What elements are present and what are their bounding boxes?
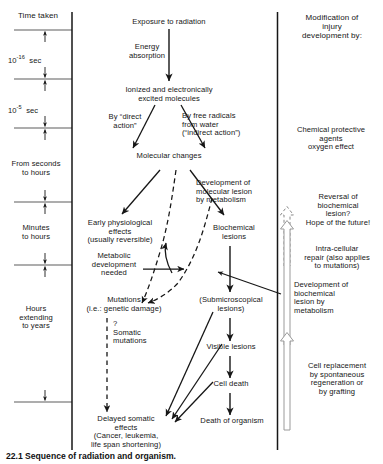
node-biochemical-lesions: Biochemical lesions — [205, 224, 263, 241]
time-interval-5: Hours extending to years — [4, 305, 68, 331]
node-delayed-somatic-effects: Delayed somatic effects (Cancer, leukemi… — [74, 415, 178, 449]
node-submicroscopical-lesions: (Submicroscopical lesions) — [188, 296, 274, 313]
time-interval-1-exponent: -16 — [17, 54, 25, 60]
node-mutations: Mutations (i.e.: genetic damage) — [74, 296, 174, 313]
time-axis-ticks — [14, 30, 72, 402]
modifier-reversal-biochemical-lesion: Reversal of biochemical lesion? Hope of … — [296, 193, 380, 227]
modification-header: Modification of injury development by: — [284, 14, 380, 41]
modifier-chemical-protective-agents: Chemical protective agents oxygen effect — [282, 126, 380, 152]
node-energy-absorption: Energy absorption — [118, 43, 176, 60]
modifier-development-biochemical-lesion: Development of biochemical lesion by met… — [294, 281, 378, 315]
node-direct-action: By “direct action” — [101, 113, 149, 130]
node-cell-death: Cell death — [196, 380, 266, 389]
node-indirect-action: By free radicals from water (“indirect a… — [182, 112, 274, 138]
modifier-intra-cellular-repair: Intra-cellular repair (also applies to m… — [294, 245, 380, 271]
node-death-of-organism: Death of organism — [186, 417, 278, 426]
node-visible-lesions: Visible lesions — [190, 343, 272, 352]
node-somatic-mutations: ? Somatic mutations — [113, 320, 167, 346]
connector-development-biochemical-lesion — [218, 272, 281, 294]
node-ionized-excited-molecules: Ionized and electronically excited molec… — [100, 86, 238, 103]
time-interval-4: Minutes to hours — [4, 224, 68, 241]
hollow-arrow-intra-cellular-repair — [281, 221, 294, 346]
dashed-route-biochemical-to-mutations — [148, 198, 212, 303]
modifier-cell-replacement: Cell replacement by spontaneous regenera… — [294, 362, 380, 396]
node-metabolic-development-needed: Metabolic development needed — [82, 252, 146, 278]
time-interval-3: From seconds to hours — [2, 160, 70, 177]
time-interval-1: 10-16 sec — [8, 45, 66, 65]
figure-caption: 22.1 Sequence of radiation and organism. — [6, 452, 378, 462]
flow-arrow-submicroscopical-to-delayed — [166, 312, 213, 416]
time-interval-1-unit: sec — [29, 55, 41, 64]
time-interval-2: 10-5 sec — [8, 95, 66, 115]
node-early-physiological-effects: Early physiological effects (usually rev… — [74, 219, 166, 245]
node-molecular-changes: Molecular changes — [118, 152, 220, 161]
time-interval-2-base: 10 — [8, 105, 17, 114]
time-interval-1-base: 10 — [8, 55, 17, 64]
flow-arrow-molecular-to-early-physiological — [122, 170, 160, 214]
time-interval-2-unit: sec — [26, 105, 38, 114]
hollow-arrow-cell-replacement — [281, 333, 294, 431]
node-exposure: Exposure to radiation — [109, 18, 229, 27]
time-interval-2-exponent: -5 — [17, 104, 22, 110]
node-development-molecular-lesion: Development of molecular lesion by metab… — [196, 179, 276, 205]
time-axis-header: Time taken — [8, 12, 68, 21]
figure-canvas: Time taken Modification of injury develo… — [0, 0, 383, 464]
